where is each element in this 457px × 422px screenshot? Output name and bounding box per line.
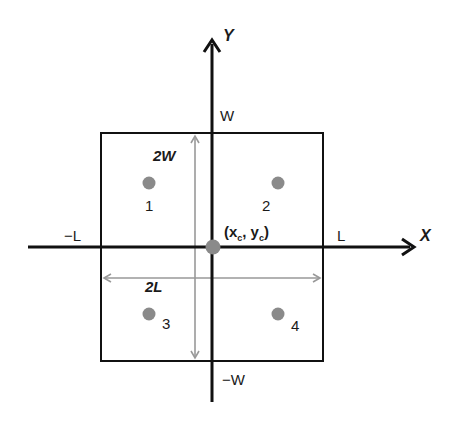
point-4-marker [272,308,285,321]
height-dimension-label: 2W [152,147,177,164]
point-3-label: 3 [162,315,170,332]
width-dimension-label: 2L [144,278,163,295]
bottom-bound-label: −W [222,371,246,388]
center-point-label: (xc,yc) [224,223,269,243]
center-point-marker [206,240,221,255]
top-bound-label: W [220,107,235,124]
point-1-label: 1 [145,197,153,214]
point-4-label: 4 [291,317,299,334]
left-bound-label: −L [64,227,81,244]
x-axis-label: X [419,227,432,244]
right-bound-label: L [337,227,345,244]
point-2-label: 2 [262,197,270,214]
point-1-marker [143,177,156,190]
point-3-marker [143,308,156,321]
y-axis-label: Y [223,27,235,44]
coordinate-diagram: Y X W −W −L L 2W 2L 1 2 3 4 (xc,yc) [0,0,457,422]
point-2-marker [272,177,285,190]
